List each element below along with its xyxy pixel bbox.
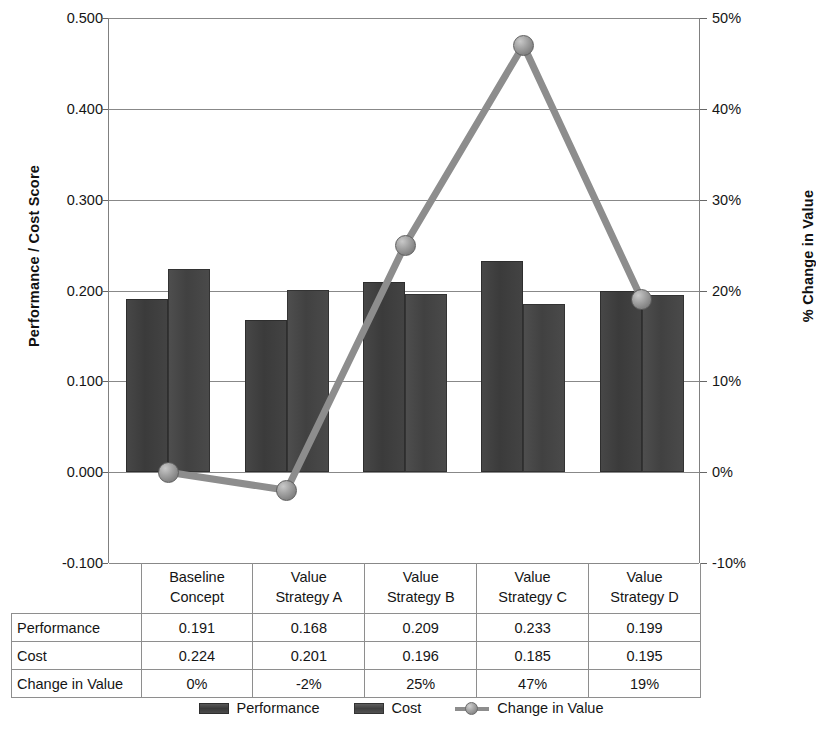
table-header-cell: BaselineConcept [141, 563, 253, 614]
line-marker [513, 35, 534, 56]
table-cell: 0.201 [253, 642, 365, 670]
y-axis-right-title: % Change in Value [800, 136, 816, 376]
table-cell: 0.185 [477, 642, 589, 670]
table-cell: 0.209 [365, 614, 477, 642]
y-axis-right-tickmark [700, 563, 707, 564]
table-cell: 0.233 [477, 614, 589, 642]
y-axis-left-title: Performance / Cost Score [26, 136, 42, 376]
y-axis-left-tickmark [101, 200, 108, 201]
y-axis-right-tick-label: 40% [712, 102, 772, 117]
table-cell: 0.191 [141, 614, 253, 642]
y-axis-left-tickmark [101, 291, 108, 292]
table-cell: 0.168 [253, 614, 365, 642]
table-header-cell: ValueStrategy C [477, 563, 589, 614]
y-axis-right-ticks: 50%40%30%20%10%0%-10% [712, 0, 772, 746]
y-axis-right-tickmark [700, 472, 707, 473]
y-axis-right-tick-label: 10% [712, 374, 772, 389]
table-header-corner [12, 563, 142, 614]
chart-legend: PerformanceCostChange in Value [0, 700, 802, 716]
legend-label: Cost [392, 700, 422, 716]
y-axis-left-tickmark [101, 472, 108, 473]
table-header-cell: ValueStrategy B [365, 563, 477, 614]
legend-swatch-icon [354, 703, 384, 714]
y-axis-left-tick-label: 0.300 [55, 193, 103, 208]
y-axis-right-tick-label: 50% [712, 11, 772, 26]
table-row: Cost0.2240.2010.1960.1850.195 [12, 642, 701, 670]
y-axis-right-tickmark [700, 109, 707, 110]
table-cell: 0% [141, 670, 253, 698]
line-marker [276, 480, 297, 501]
line-marker [158, 462, 179, 483]
y-axis-left-tickmark [101, 18, 108, 19]
y-axis-right-tickmark [700, 18, 707, 19]
line-marker [395, 235, 416, 256]
y-axis-right-tick-label: 0% [712, 465, 772, 480]
y-axis-left-tick-label: 0.000 [55, 465, 103, 480]
data-table: BaselineConceptValueStrategy AValueStrat… [11, 563, 701, 698]
y-axis-right-tickmark [700, 200, 707, 201]
table-row-label: Cost [12, 642, 142, 670]
y-axis-left-tick-label: 0.500 [55, 11, 103, 26]
legend-swatch-icon [199, 703, 229, 714]
table-header-cell: ValueStrategy D [589, 563, 701, 614]
y-axis-left-tickmark [101, 109, 108, 110]
table-cell: 19% [589, 670, 701, 698]
y-axis-left-tick-label: 0.200 [55, 284, 103, 299]
table-cell: 25% [365, 670, 477, 698]
table-row-label: Performance [12, 614, 142, 642]
table-row: Change in Value0%-2%25%47%19% [12, 670, 701, 698]
y-axis-left-tick-label: 0.400 [55, 102, 103, 117]
table-cell: 0.224 [141, 642, 253, 670]
y-axis-right-tick-label: 20% [712, 284, 772, 299]
y-axis-left-tickmark [101, 381, 108, 382]
table-cell: -2% [253, 670, 365, 698]
table-cell: 47% [477, 670, 589, 698]
plot-area [108, 18, 700, 563]
legend-item[interactable]: Performance [199, 700, 320, 716]
y-axis-right-tickmark [700, 291, 707, 292]
y-axis-left-tick-label: 0.100 [55, 374, 103, 389]
legend-item[interactable]: Change in Value [455, 700, 603, 716]
table-row: Performance0.1910.1680.2090.2330.199 [12, 614, 701, 642]
y-axis-right-tickmark [700, 381, 707, 382]
line-series-layer [109, 18, 701, 563]
y-axis-right-tick-label: -10% [712, 556, 772, 571]
table-row-label: Change in Value [12, 670, 142, 698]
y-axis-right-tick-label: 30% [712, 193, 772, 208]
legend-line-marker-icon [455, 702, 489, 715]
table-header-row: BaselineConceptValueStrategy AValueStrat… [12, 563, 701, 614]
table-cell: 0.195 [589, 642, 701, 670]
table-cell: 0.196 [365, 642, 477, 670]
legend-marker-dot [465, 702, 478, 715]
line-change-in-value [168, 45, 642, 490]
legend-label: Performance [237, 700, 320, 716]
table-header-cell: ValueStrategy A [253, 563, 365, 614]
legend-label: Change in Value [497, 700, 603, 716]
table-cell: 0.199 [589, 614, 701, 642]
legend-item[interactable]: Cost [354, 700, 422, 716]
